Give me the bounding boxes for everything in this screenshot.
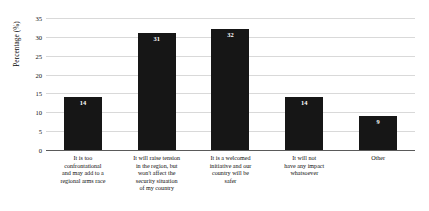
x-axis-line — [46, 150, 415, 151]
x-axis-category-label: It is tooconfrontationaland may add to a… — [46, 155, 120, 193]
category-label-line: It will raise tension — [121, 155, 193, 163]
x-axis-category-label: It will nothave any impactwhatsoever — [267, 155, 341, 193]
bar[interactable]: 9 — [359, 116, 397, 150]
bar-slot: 9 — [341, 18, 415, 150]
bar-value-label: 32 — [227, 32, 233, 150]
category-label-line: country will be — [195, 170, 267, 178]
bar[interactable]: 31 — [138, 33, 176, 150]
category-label-line: whatsoever — [268, 170, 340, 178]
bar-series: 143132149 — [46, 18, 415, 150]
x-axis-category-labels: It is tooconfrontationaland may add to a… — [46, 155, 415, 193]
y-axis-tick-labels: 35302520151050 — [0, 18, 42, 150]
bar-slot: 14 — [46, 18, 120, 150]
bar-slot: 14 — [267, 18, 341, 150]
category-label-line: won't affect the — [121, 170, 193, 178]
category-label-line: safer — [195, 178, 267, 186]
y-axis-tick-label: 30 — [2, 33, 42, 40]
y-axis-tick-label: 35 — [2, 15, 42, 22]
category-label-line: security situation — [121, 178, 193, 186]
y-axis-tick-label: 10 — [2, 109, 42, 116]
category-label-line: in the region, but — [121, 163, 193, 171]
bar-value-label: 9 — [376, 119, 379, 150]
bar-slot: 32 — [194, 18, 268, 150]
bar[interactable]: 14 — [285, 97, 323, 150]
x-axis-category-label: It will raise tensionin the region, butw… — [120, 155, 194, 193]
y-axis-tick-label: 20 — [2, 71, 42, 78]
x-axis-category-label: It is a welcomedinitiative and ourcountr… — [194, 155, 268, 193]
y-axis-tick-label: 0 — [2, 147, 42, 154]
y-axis-tick-label: 15 — [2, 90, 42, 97]
category-label-line: confrontational — [47, 163, 119, 171]
category-label-line: initiative and our — [195, 163, 267, 171]
bar-chart: Percentage (%) 35302520151050 143132149 … — [0, 0, 429, 211]
category-label-line: Other — [342, 155, 414, 163]
bar-value-label: 31 — [153, 36, 159, 150]
category-label-line: regional arms race — [47, 178, 119, 186]
category-label-line: of my country — [121, 185, 193, 193]
category-label-line: It will not — [268, 155, 340, 163]
category-label-line: It is too — [47, 155, 119, 163]
bar[interactable]: 32 — [211, 29, 249, 150]
bar-value-label: 14 — [80, 100, 86, 150]
bar-slot: 31 — [120, 18, 194, 150]
category-label-line: It is a welcomed — [195, 155, 267, 163]
category-label-line: and may add to a — [47, 170, 119, 178]
bar[interactable]: 14 — [64, 97, 102, 150]
category-label-line: have any impact — [268, 163, 340, 171]
bar-value-label: 14 — [301, 100, 307, 150]
x-axis-category-label: Other — [341, 155, 415, 193]
y-axis-tick-label: 25 — [2, 52, 42, 59]
y-axis-tick-label: 5 — [2, 128, 42, 135]
